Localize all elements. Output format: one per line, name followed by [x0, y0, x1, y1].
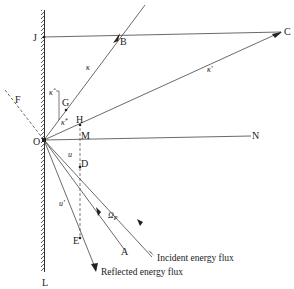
- label-kappa-hat-prime: κ̂': [61, 118, 68, 127]
- label-L: L: [42, 277, 48, 288]
- label-kappa: κ: [86, 63, 90, 72]
- label-u-prime: u': [59, 199, 65, 208]
- omega-subscript: P: [113, 215, 118, 221]
- arrow-C: [272, 32, 282, 38]
- label-G: G: [62, 97, 69, 108]
- label-O: O: [33, 136, 40, 147]
- label-D: D: [81, 158, 88, 169]
- label-kappa-hat: κ̂: [49, 88, 56, 97]
- label-omega-p: ΩP: [108, 211, 118, 221]
- point-markers: [42, 36, 81, 240]
- arrow-incident-mid: [137, 219, 143, 226]
- label-B: B: [120, 36, 127, 47]
- caption-reflected: Reflected energy flux: [101, 267, 183, 277]
- label-M: M: [81, 130, 90, 141]
- reflection-diagram: J B C F G H M N O D E A L κ κ' κ̂ κ̂' u …: [0, 0, 294, 289]
- label-E: E: [73, 235, 79, 246]
- label-C: C: [284, 26, 291, 37]
- normal-line-F: [5, 90, 44, 140]
- line-OA: [44, 140, 124, 249]
- label-N: N: [252, 130, 259, 141]
- arrow-incident-tail: [148, 250, 154, 256]
- label-kappa-prime: κ': [207, 65, 213, 74]
- label-H: H: [76, 114, 83, 125]
- label-J: J: [33, 32, 37, 43]
- label-F: F: [15, 94, 21, 105]
- kappa-hat-bracket: [56, 91, 59, 120]
- arrow-B: [113, 33, 120, 43]
- arrow-reflected: [91, 263, 98, 272]
- label-A: A: [121, 246, 129, 257]
- label-u: u: [68, 150, 72, 159]
- caption-incident: Incident energy flux: [157, 253, 234, 263]
- line-ON: [44, 136, 251, 140]
- line-JC: [44, 32, 281, 37]
